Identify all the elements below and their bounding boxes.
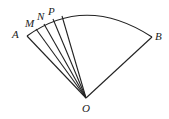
label-n: N: [36, 10, 45, 22]
radius-ob: [86, 37, 152, 98]
sector-diagram: A M N P B O: [0, 0, 169, 119]
label-p: P: [47, 5, 55, 17]
label-m: M: [24, 17, 35, 29]
label-b: B: [155, 30, 162, 42]
label-a: A: [11, 28, 19, 40]
label-o: O: [82, 102, 90, 114]
